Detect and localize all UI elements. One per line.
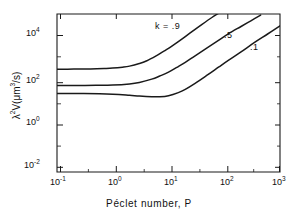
x-tick-mantissa: 10: [50, 177, 60, 187]
y-tick-exponent: 2: [36, 73, 40, 80]
y-tick-label-1e-2: 10-2: [24, 160, 40, 170]
y-tick-label-1e4: 104: [26, 28, 40, 38]
y-axis-title-lambda: λ: [11, 114, 22, 119]
x-tick-label-1e0: 100: [108, 177, 122, 187]
x-tick-exponent: 3: [282, 175, 286, 182]
x-tick-label-1e-1: 10-1: [50, 177, 66, 187]
x-tick-label-1e2: 102: [220, 177, 234, 187]
plot-canvas: [0, 0, 298, 221]
y-axis-title-exp1: 2: [9, 111, 16, 115]
chart-figure: 104 102 100 10-2 10-1 100 101 102 103 Pé…: [0, 0, 298, 221]
y-tick-mantissa: 10: [26, 28, 36, 38]
x-tick-mantissa: 10: [108, 177, 118, 187]
y-axis-title: λ2V(μm3/s): [11, 36, 22, 156]
y-axis-ticks: [57, 36, 280, 168]
y-axis-title-exp2: 3: [9, 83, 16, 87]
y-axis-title-units: V(μm: [11, 87, 22, 111]
y-tick-mantissa: 10: [26, 75, 36, 85]
x-tick-mantissa: 10: [272, 177, 282, 187]
curve-label-k-0-9: k = .9: [155, 21, 180, 31]
x-axis-title: Péclet number, P: [0, 198, 298, 209]
y-tick-mantissa: 10: [26, 117, 36, 127]
y-tick-mantissa: 10: [24, 160, 34, 170]
x-tick-exponent: 1: [174, 175, 178, 182]
y-tick-exponent: 0: [36, 115, 40, 122]
curve-k-0-1: [57, 26, 280, 97]
x-tick-label-1e3: 103: [272, 177, 286, 187]
x-tick-label-1e1: 101: [164, 177, 178, 187]
curve-label-k-0-1: .1: [250, 42, 259, 52]
x-tick-mantissa: 10: [220, 177, 230, 187]
curve-label-k-0-5: .5: [224, 30, 233, 40]
x-tick-exponent: -1: [60, 175, 66, 182]
x-tick-mantissa: 10: [164, 177, 174, 187]
y-tick-exponent: 4: [36, 26, 40, 33]
y-tick-label-1e2: 102: [26, 75, 40, 85]
curve-k-0-9: [57, 13, 219, 69]
y-axis-minor-ticks: [57, 57, 280, 146]
x-tick-exponent: 2: [230, 175, 234, 182]
y-axis-title-tail: /s): [11, 72, 22, 83]
y-tick-label-1e0: 100: [26, 117, 40, 127]
y-tick-exponent: -2: [34, 158, 40, 165]
x-tick-exponent: 0: [118, 175, 122, 182]
